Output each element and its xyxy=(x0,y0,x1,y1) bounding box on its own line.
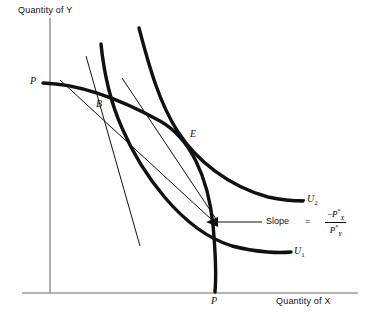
numerator-star: * xyxy=(338,208,341,214)
numerator-subscript: X xyxy=(341,215,345,221)
denominator-subscript: Y xyxy=(338,231,341,237)
point-label-b: B xyxy=(96,99,102,109)
point-label-e: E xyxy=(190,129,196,139)
curve-label-u1-subscript: 1 xyxy=(301,251,305,259)
slope-fraction-numerator: −P*X xyxy=(325,208,346,223)
slope-fraction: −P*X P*Y xyxy=(325,208,346,237)
diagram-canvas xyxy=(0,0,369,322)
slope-annotation-label: Slope xyxy=(266,217,289,226)
slope-equals-sign: = xyxy=(305,217,310,226)
slope-fraction-denominator: P*Y xyxy=(325,223,346,237)
curve-label-u2: U2 xyxy=(307,194,318,207)
curve-label-u2-subscript: 2 xyxy=(314,199,318,207)
economics-diagram: Quantity of Y Quantity of X P B E P U2 U… xyxy=(0,0,369,322)
point-label-p-horizontal: P xyxy=(211,296,217,306)
production-possibility-frontier xyxy=(43,83,216,292)
y-axis-label: Quantity of Y xyxy=(18,6,72,15)
denominator-star: * xyxy=(335,224,338,230)
x-axis-label: Quantity of X xyxy=(276,297,331,306)
curve-label-u1: U1 xyxy=(294,246,305,259)
point-label-p-vertical: P xyxy=(30,76,36,86)
indifference-curve-u1 xyxy=(101,44,291,252)
